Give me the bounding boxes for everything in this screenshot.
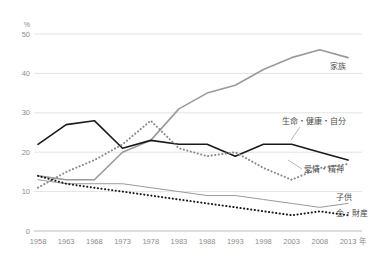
chart-canvas: 01020304050%1958196319681973197819831988… (0, 0, 372, 260)
series-label-子供: 子供 (336, 192, 352, 202)
series-label-愛情・精神: 愛情・精神 (304, 164, 344, 174)
x-tick-label-1958: 1958 (30, 237, 47, 246)
x-tick-label-1988: 1988 (199, 237, 216, 246)
series-line-2 (38, 121, 348, 188)
y-tick-label-50: 50 (22, 30, 30, 39)
series-label-家族: 家族 (330, 61, 346, 71)
series-label-生命・健康・自分: 生命・健康・自分 (282, 116, 346, 126)
x-tick-label-2003: 2003 (283, 237, 300, 246)
leader-line-2 (288, 160, 302, 169)
x-tick-label-1983: 1983 (171, 237, 188, 246)
series-line-3 (38, 180, 348, 208)
x-tick-label-1978: 1978 (142, 237, 159, 246)
x-tick-label-1973: 1973 (114, 237, 131, 246)
x-tick-label-2013: 2013 (340, 237, 357, 246)
series-line-4 (38, 176, 348, 215)
x-tick-label-1963: 1963 (58, 237, 75, 246)
series-label-金・財産: 金・財産 (336, 208, 368, 218)
y-tick-label-30: 30 (22, 108, 30, 117)
y-tick-label-0: 0 (26, 227, 30, 236)
x-tick-label-1968: 1968 (86, 237, 103, 246)
x-axis-unit: 年 (359, 236, 367, 246)
y-tick-label-20: 20 (22, 148, 30, 157)
line-chart: 01020304050%1958196319681973197819831988… (0, 0, 372, 260)
series-line-0 (38, 50, 348, 180)
x-tick-label-1998: 1998 (255, 237, 272, 246)
y-tick-label-10: 10 (22, 187, 30, 196)
y-tick-label-40: 40 (22, 69, 30, 78)
leader-line-1 (291, 127, 300, 140)
y-axis-unit: % (24, 21, 30, 28)
x-tick-label-1993: 1993 (227, 237, 244, 246)
series-line-1 (38, 121, 348, 160)
x-tick-label-2008: 2008 (311, 237, 328, 246)
